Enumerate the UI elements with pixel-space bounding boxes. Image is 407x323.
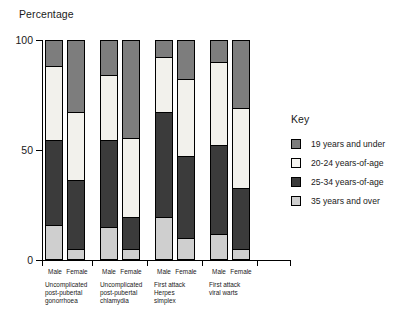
bar-segment [178,157,194,240]
bar-segment [156,113,172,218]
legend-swatch-35-and-over [291,196,301,206]
bar-segment [46,67,62,141]
x-axis-line [42,260,291,261]
legend-item-35-and-over: 35 years and over [291,191,385,210]
bar-segment [156,58,172,113]
y-tick-label-100: 100 [15,34,33,46]
bar-segment [68,181,84,251]
bar-segment [68,41,84,113]
bar-segment [233,250,249,259]
bar-segment [46,226,62,259]
x-tick [257,261,258,266]
bar-label-female: Female [224,268,258,275]
bar-segment [178,80,194,156]
x-tick [147,261,148,266]
group-label-line: simplex [154,297,224,305]
legend-item-19-and-under: 19 years and under [291,134,385,153]
plot-area [42,40,282,260]
legend-title: Key [291,113,385,125]
bar-chlamydia-female [122,40,140,260]
bar-segment [123,250,139,259]
y-tick-label-50: 50 [21,144,33,156]
x-tick [92,261,93,266]
bar-segment [233,189,249,250]
legend: Key 19 years and under 20-24 years-of-ag… [291,113,385,210]
legend-label: 19 years and under [311,139,385,149]
bar-segment [178,41,194,80]
bar-segment [211,41,227,63]
x-tick [290,261,291,266]
bar-segment [211,63,227,146]
bar-gonorrhoea-female [67,40,85,260]
bar-segment [211,146,227,235]
bar-segment [101,228,117,259]
bar-segment [101,141,117,228]
legend-label: 35 years and over [311,196,380,206]
y-tick-label-0: 0 [27,254,33,266]
bar-label-female: Female [60,268,94,275]
bar-segment [123,218,139,251]
bar-segment [68,113,84,181]
bar-gonorrhoea-male [45,40,63,260]
bar-segment [46,41,62,67]
bar-label-female: Female [169,268,203,275]
x-tick [42,261,43,266]
bar-warts-female [232,40,250,260]
bar-segment [211,235,227,259]
bar-segment [123,139,139,217]
bar-chlamydia-male [100,40,118,260]
bar-segment [156,218,172,259]
bar-segment [123,41,139,139]
bar-segment [101,41,117,76]
legend-item-25-34: 25-34 years-of-age [291,172,385,191]
bar-segment [233,41,249,109]
x-tick [202,261,203,266]
bar-segment [233,109,249,190]
legend-item-20-24: 20-24 years-of-age [291,153,385,172]
group-label-line: viral warts [209,289,279,297]
bar-segment [68,250,84,259]
stacked-bar-chart-figure: Percentage 100 50 0 Male Female Male Fem… [0,0,407,323]
bar-warts-male [210,40,228,260]
bar-label-female: Female [114,268,148,275]
bar-segment [156,41,172,58]
group-label-viral-warts: First attack viral warts [209,281,279,297]
legend-swatch-20-24 [291,158,301,168]
legend-swatch-19-and-under [291,139,301,149]
legend-label: 25-34 years-of-age [311,177,384,187]
y-axis-title: Percentage [19,8,74,20]
bar-segment [101,76,117,141]
bar-herpes-male [155,40,173,260]
legend-swatch-25-34 [291,177,301,187]
bar-segment [178,239,194,259]
group-label-line: First attack [209,281,279,289]
legend-label: 20-24 years-of-age [311,158,384,168]
bar-herpes-female [177,40,195,260]
bar-segment [46,141,62,226]
